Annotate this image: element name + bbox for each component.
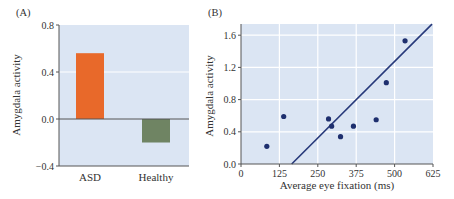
y-tick-label: 1.6: [224, 30, 237, 41]
data-point: [264, 144, 269, 149]
x-category-label: Healthy: [139, 171, 174, 183]
y-tick-label: 0.4: [42, 67, 55, 78]
y-tick-label: 0.0: [42, 114, 55, 125]
data-point: [329, 124, 334, 129]
panel-b-y-axis-label: Amygdala activity: [203, 55, 215, 137]
x-tick-label: 375: [349, 168, 364, 179]
panel-a-y-axis-label: Amygdala activity: [10, 54, 22, 136]
data-point: [338, 134, 343, 139]
panel-a: (A) 0.80.40.0−0.4ASDHealthy Amygdala act…: [10, 7, 189, 183]
y-tick-label: 0.4: [224, 126, 237, 137]
y-tick-label: 0.8: [224, 94, 237, 105]
x-tick-label: 625: [426, 168, 441, 179]
data-point: [326, 116, 331, 121]
y-tick-label: 1.2: [224, 62, 237, 73]
bar-asd: [76, 53, 104, 119]
panel-b-label: (B): [208, 7, 223, 19]
x-tick-label: 125: [272, 168, 287, 179]
bar-healthy: [142, 119, 170, 143]
x-tick-label: 500: [387, 168, 402, 179]
data-point: [402, 38, 407, 43]
panel-b-plot-area: [241, 24, 433, 164]
x-category-label: ASD: [79, 171, 101, 183]
y-tick-label: 0.8: [42, 20, 55, 31]
panel-a-label: (A): [16, 7, 31, 19]
data-point: [281, 114, 286, 119]
figure: (A) 0.80.40.0−0.4ASDHealthy Amygdala act…: [0, 0, 454, 199]
x-tick-label: 250: [310, 168, 325, 179]
panel-b-x-axis-label: Average eye fixation (ms): [280, 179, 395, 192]
data-point: [384, 80, 389, 85]
y-tick-label: 0.0: [224, 159, 237, 170]
panel-b: (B) 0.00.40.81.21.60125250375500625 Amyg…: [203, 7, 441, 192]
data-point: [374, 117, 379, 122]
y-tick-label: −0.4: [36, 161, 54, 172]
x-tick-label: 0: [239, 168, 244, 179]
data-point: [351, 124, 356, 129]
